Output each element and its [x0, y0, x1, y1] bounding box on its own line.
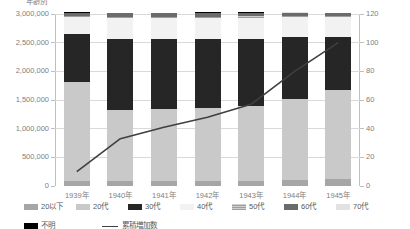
- legend-label: 不明: [41, 222, 55, 229]
- legend-item-70s[interactable]: 70代: [336, 203, 368, 211]
- y-axis-left-label: 0: [1, 182, 49, 190]
- age-distribution-chart: 年齢別 0500,0001,000,0001,500,0002,000,0002…: [0, 0, 410, 229]
- y-tick-right: [360, 71, 364, 72]
- y-axis-left-label: 1,500,000: [1, 96, 49, 104]
- y-tick-right: [360, 186, 364, 187]
- x-axis-label: 1939年: [55, 189, 99, 200]
- legend-item-20s[interactable]: 20代: [76, 203, 108, 211]
- legend-color-swatch: [180, 204, 194, 210]
- legend-label: 50代: [249, 203, 264, 211]
- x-axis-label: 1945年: [316, 189, 360, 200]
- chart-title: 年齢別: [26, 0, 48, 6]
- legend-item-unknown[interactable]: 不明: [24, 222, 55, 229]
- y-axis-left-label: 2,000,000: [1, 67, 49, 75]
- legend-row: 20以下20代30代40代50代60代70代: [24, 200, 410, 213]
- y-tick-right: [360, 42, 364, 43]
- x-axis-label: 1941年: [142, 189, 186, 200]
- y-axis-right-label: 100: [366, 39, 396, 47]
- chart-legend: 20以下20代30代40代50代60代70代 不明累積増加数: [24, 200, 410, 226]
- cumulative-line-svg: [55, 14, 360, 186]
- y-tick-right: [360, 100, 364, 101]
- y-tick-right: [360, 157, 364, 158]
- cumulative-increase-line: [77, 43, 338, 172]
- y-axis-left-label: 2,500,000: [1, 39, 49, 47]
- legend-label: 累積増加数: [122, 222, 157, 229]
- y-axis-left-label: 500,000: [1, 153, 49, 161]
- legend-color-swatch: [284, 204, 298, 210]
- legend-label: 20以下: [41, 203, 63, 211]
- legend-item-30s[interactable]: 30代: [128, 203, 160, 211]
- x-axis-label: 1942年: [186, 189, 230, 200]
- legend-label: 20代: [93, 203, 108, 211]
- legend-label: 60代: [301, 203, 316, 211]
- y-tick-right: [360, 14, 364, 15]
- x-axis-label: 1940年: [99, 189, 143, 200]
- x-axis-label: 1944年: [273, 189, 317, 200]
- cumulative-line-layer: [55, 14, 360, 186]
- y-axis-right-label: 60: [366, 96, 396, 104]
- y-axis-right-label: 80: [366, 67, 396, 75]
- legend-color-swatch: [232, 204, 246, 210]
- legend-label: 40代: [197, 203, 212, 211]
- y-axis-right-label: 120: [366, 10, 396, 18]
- y-tick-right: [360, 128, 364, 129]
- y-axis-left-label: 3,000,000: [1, 10, 49, 18]
- y-axis-right-label: 0: [366, 182, 396, 190]
- legend-color-swatch: [24, 223, 38, 229]
- x-axis-label: 1943年: [229, 189, 273, 200]
- legend-item-20under[interactable]: 20以下: [24, 203, 63, 211]
- legend-item-50s[interactable]: 50代: [232, 203, 264, 211]
- legend-item-40s[interactable]: 40代: [180, 203, 212, 211]
- y-axis-right-label: 40: [366, 125, 396, 133]
- legend-item-60s[interactable]: 60代: [284, 203, 316, 211]
- legend-color-swatch: [24, 204, 38, 210]
- legend-color-swatch: [336, 204, 350, 210]
- y-axis-left-label: 1,000,000: [1, 125, 49, 133]
- legend-color-swatch: [76, 204, 90, 210]
- legend-label: 70代: [353, 203, 368, 211]
- legend-line-swatch: [102, 226, 118, 227]
- legend-item-line[interactable]: 累積増加数: [102, 222, 157, 229]
- legend-row: 不明累積増加数: [24, 213, 410, 226]
- legend-label: 30代: [145, 203, 160, 211]
- plot-area: [55, 14, 360, 186]
- legend-color-swatch: [128, 204, 142, 210]
- y-axis-right-label: 20: [366, 153, 396, 161]
